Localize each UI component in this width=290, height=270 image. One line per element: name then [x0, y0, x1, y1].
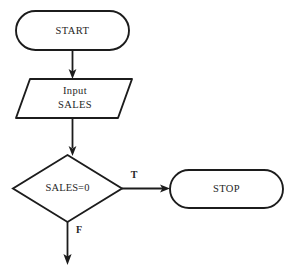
flowchart-svg: START Input SALES SALES=0 T — [0, 0, 290, 270]
flowchart-canvas: START Input SALES SALES=0 T — [0, 0, 290, 270]
edge-input-to-decision — [69, 118, 77, 156]
node-input[interactable]: Input SALES — [16, 79, 132, 118]
decision-false-label: F — [76, 224, 82, 235]
node-stop[interactable]: STOP — [170, 170, 283, 208]
input-label-line1: Input — [63, 85, 87, 96]
decision-true-label: T — [131, 169, 138, 180]
start-label: START — [56, 25, 90, 36]
node-start[interactable]: START — [16, 11, 129, 50]
decision-label: SALES=0 — [46, 182, 90, 193]
edge-decision-true: T — [122, 169, 170, 192]
edge-start-to-input — [69, 50, 77, 79]
node-decision[interactable]: SALES=0 — [13, 155, 122, 222]
input-label-line2: SALES — [58, 99, 92, 110]
stop-label: STOP — [213, 183, 240, 194]
edge-decision-false: F — [63, 222, 82, 265]
